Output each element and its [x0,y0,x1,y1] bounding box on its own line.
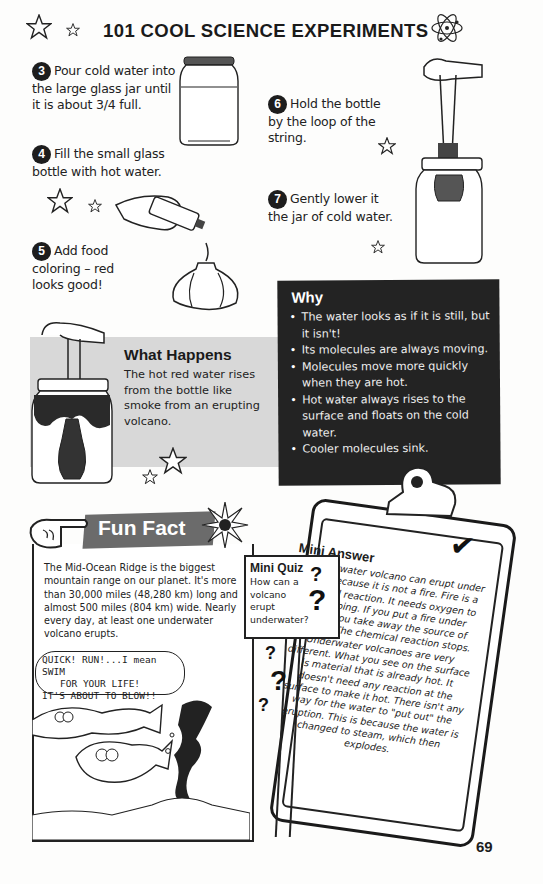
why-title: Why [291,288,323,305]
speech-line: QUICK! RUN!...I mean SWIM [42,654,178,678]
speech-bubble: QUICK! RUN!...I mean SWIM FOR YOUR LIFE!… [35,651,185,695]
mini-quiz-card: Mini Quiz How can a volcano erupt underw… [244,555,340,639]
step-text: Pour cold water into the large glass jar… [32,63,175,112]
checkmark-icon: ✔ [448,526,478,564]
atom-icon [430,12,464,44]
glass-jar-illustration [178,55,240,147]
star-small-icon [88,199,102,213]
why-item: Its molecules are always moving. [290,341,495,359]
step-text: Fill the small glass bottle with hot wat… [32,146,165,179]
step-text: Gently lower it the jar of cold water. [268,191,393,224]
header: 101 COOL SCIENCE EXPERIMENTS [0,0,543,45]
step-4: 4Fill the small glass bottle with hot wa… [32,145,182,180]
fun-fact-text: The Mid-Ocean Ridge is the biggest mount… [44,561,248,641]
mini-quiz-title: Mini Quiz [250,561,303,575]
star-outline-icon [47,188,73,214]
what-happens-text: The hot red water rises from the bottle … [124,367,264,429]
question-mark-icon: ? [265,643,276,664]
question-mark-icon: ? [270,665,287,697]
star-small-icon [378,137,396,155]
step-5: 5Add food coloring – red looks good! [32,242,142,293]
jar-volcano-illustration [30,315,115,485]
step-number-badge: 5 [32,242,51,261]
page-number: 69 [476,838,493,855]
step-number-badge: 6 [268,95,287,114]
why-item: The water looks as if it is still, but i… [289,308,494,342]
fun-fact-title: Fun Fact [98,516,186,540]
mini-quiz-question: How can a volcano erupt underwater? [250,576,308,626]
clipboard-clip-icon [385,462,465,522]
step-7: 7Gently lower it the jar of cold water. [268,190,393,225]
bottle-lowered-into-jar-illustration [412,55,492,270]
star-outline-icon [159,447,187,475]
fish-cartoon-illustration [32,695,250,840]
pointing-hand-icon [27,512,89,552]
star-small-icon [371,240,385,254]
star-small-icon [66,23,80,37]
why-panel: Why The water looks as if it is still, b… [277,279,500,486]
why-item: Cooler molecules sink. [290,440,495,458]
question-mark-icon: ? [308,583,326,617]
starburst-icon [200,500,250,550]
step-3: 3Pour cold water into the large glass ja… [32,62,182,113]
why-list: The water looks as if it is still, but i… [289,308,495,458]
step-6: 6Hold the bottle by the loop of the stri… [268,95,393,146]
star-outline-icon [26,14,52,40]
step-number-badge: 3 [32,62,51,81]
speech-line: FOR YOUR LIFE! [42,678,178,690]
book-title: 101 COOL SCIENCE EXPERIMENTS [103,20,428,42]
what-happens-title: What Happens [124,346,232,364]
star-small-icon [142,469,158,485]
step-number-badge: 7 [268,190,287,209]
why-item: Hot water always rises to the surface an… [290,391,495,442]
question-mark-icon: ? [258,695,269,716]
step-number-badge: 4 [32,145,51,164]
why-item: Molecules move more quickly when they ar… [290,358,495,392]
